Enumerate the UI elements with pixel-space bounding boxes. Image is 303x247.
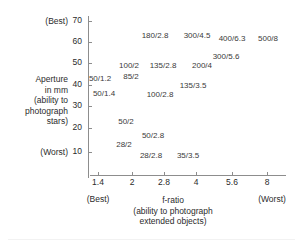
x-tick-label-4: 4 — [181, 178, 211, 187]
x-axis-title: f-ratio(ability to photograph extended o… — [118, 195, 228, 227]
data-point-label: 50/1.2 — [89, 74, 111, 83]
data-point-label: 300/5.6 — [213, 52, 240, 61]
y-tick-label-50: 50 — [58, 58, 82, 67]
y-tick-mark-20 — [88, 128, 92, 129]
data-point-label: 50/2.8 — [142, 131, 164, 140]
data-point-label: 85/2 — [123, 72, 139, 81]
x-axis-worst-label: (Worst) — [246, 195, 298, 204]
y-tick-label-30: 30 — [58, 101, 82, 110]
y-tick-label-text: 60 — [58, 37, 82, 46]
x-tick-mark-2.8 — [164, 172, 165, 176]
x-tick-label-1.4: 1.4 — [83, 178, 113, 187]
y-tick-label-20: 20 — [58, 123, 82, 132]
x-axis-line — [90, 175, 286, 176]
data-point-label: 500/8 — [258, 34, 278, 43]
data-point-label: 100/2 — [119, 61, 139, 70]
y-tick-label-10: 10 — [58, 147, 82, 156]
y-tick-mark-40 — [88, 85, 92, 86]
x-tick-mark-1.4 — [98, 172, 99, 176]
x-tick-label-2.8: 2.8 — [149, 178, 179, 187]
x-tick-mark-8 — [267, 172, 268, 176]
data-point-label: 28/2 — [116, 140, 132, 149]
y-tick-label-60: 60 — [58, 37, 82, 46]
data-point-label: 50/1.4 — [93, 89, 115, 98]
y-axis-line — [88, 16, 89, 178]
data-point-label: 100/2.8 — [147, 90, 174, 99]
y-tick-label-text: 50 — [58, 58, 82, 67]
data-point-label: 135/2.8 — [150, 61, 177, 70]
x-axis-title-sub: (ability to photograph extended objects) — [118, 206, 228, 227]
y-tick-label-text: 20 — [58, 123, 82, 132]
footer-divider — [8, 239, 295, 240]
data-point-label: 50/2 — [118, 117, 134, 126]
x-tick-mark-5.6 — [232, 172, 233, 176]
data-point-label: 135/3.5 — [180, 81, 207, 90]
scatter-chart: (Best) (Worst) Aperturein mm(ability top… — [0, 0, 303, 247]
y-tick-mark-70 — [88, 21, 92, 22]
data-point-label: 200/4 — [192, 61, 212, 70]
data-point-label: 28/2.8 — [140, 151, 162, 160]
data-point-label: 180/2.8 — [142, 31, 169, 40]
x-tick-label-2: 2 — [117, 178, 147, 187]
data-point-label: 400/6.3 — [219, 34, 246, 43]
x-axis-title-main: f-ratio — [118, 195, 228, 206]
y-tick-label-text: 10 — [58, 147, 82, 156]
y-tick-mark-60 — [88, 42, 92, 43]
x-tick-label-5.6: 5.6 — [217, 178, 247, 187]
data-point-label: 35/3.5 — [177, 151, 199, 160]
y-tick-label-text: 30 — [58, 101, 82, 110]
y-tick-label-text: 40 — [58, 80, 82, 89]
x-tick-label-8: 8 — [252, 178, 282, 187]
y-tick-label-70: 70 — [58, 16, 82, 25]
y-tick-label-40: 40 — [58, 80, 82, 89]
y-tick-mark-30 — [88, 106, 92, 107]
y-tick-mark-50 — [88, 63, 92, 64]
x-tick-mark-2 — [132, 172, 133, 176]
y-tick-label-text: 70 — [58, 16, 82, 25]
y-tick-mark-10 — [88, 152, 92, 153]
x-tick-mark-4 — [196, 172, 197, 176]
x-axis-best-label: (Best) — [72, 195, 124, 204]
data-point-label: 300/4.5 — [184, 31, 211, 40]
